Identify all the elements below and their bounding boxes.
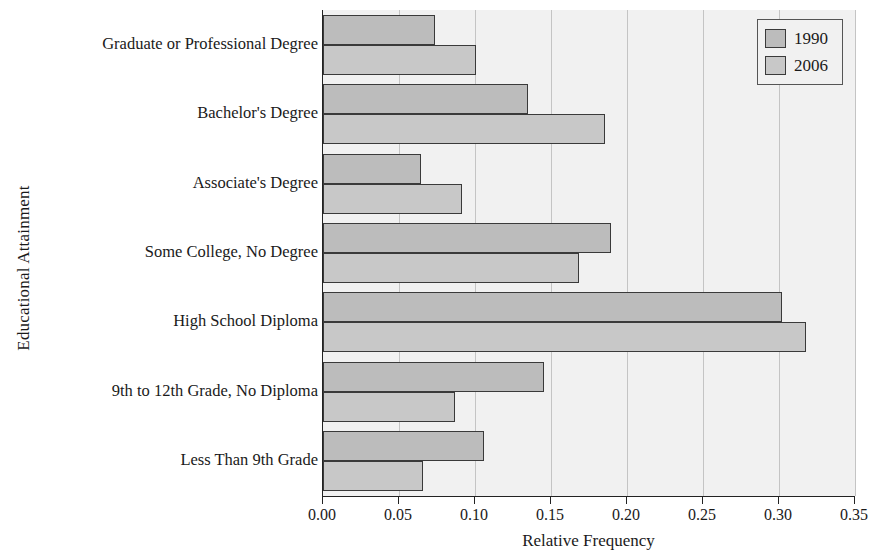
legend-label-1990: 1990	[794, 30, 828, 47]
bar-1990-5	[323, 362, 544, 392]
legend-swatch-1990	[765, 29, 786, 48]
x-tick	[398, 496, 399, 504]
bar-1990-0	[323, 15, 435, 45]
x-tick-label: 0.35	[824, 506, 878, 524]
gridline	[855, 10, 856, 496]
bar-2006-4	[323, 322, 806, 352]
x-tick	[322, 496, 323, 504]
bar-1990-4	[323, 292, 782, 322]
category-label-list: Graduate or Professional DegreeBachelor'…	[20, 10, 318, 496]
legend-swatch-2006	[765, 56, 786, 75]
bar-2006-3	[323, 253, 579, 283]
x-axis-title: Relative Frequency	[322, 531, 855, 551]
bar-2006-1	[323, 114, 605, 144]
category-label: Graduate or Professional Degree	[20, 36, 318, 53]
legend: 1990 2006	[757, 19, 843, 85]
bar-1990-6	[323, 431, 484, 461]
bar-chart: Educational Attainment Graduate or Profe…	[0, 0, 878, 558]
x-tick	[550, 496, 551, 504]
bar-1990-1	[323, 84, 528, 114]
bar-1990-2	[323, 154, 421, 184]
category-label: Some College, No Degree	[20, 244, 318, 261]
category-label: High School Diploma	[20, 313, 318, 330]
x-tick	[626, 496, 627, 504]
bar-2006-6	[323, 461, 423, 491]
category-label: 9th to 12th Grade, No Diploma	[20, 383, 318, 400]
x-tick	[474, 496, 475, 504]
x-tick-label: 0.30	[748, 506, 808, 524]
legend-item-2006: 2006	[765, 52, 836, 79]
x-tick-label: 0.05	[368, 506, 428, 524]
legend-label-2006: 2006	[794, 57, 828, 74]
x-tick-label: 0.15	[520, 506, 580, 524]
x-axis-line	[322, 496, 855, 497]
x-tick-label: 0.25	[672, 506, 732, 524]
legend-item-1990: 1990	[765, 25, 836, 52]
x-tick	[778, 496, 779, 504]
bar-2006-2	[323, 184, 462, 214]
category-label: Associate's Degree	[20, 175, 318, 192]
bar-1990-3	[323, 223, 611, 253]
x-tick-label: 0.20	[596, 506, 656, 524]
bar-2006-5	[323, 392, 455, 422]
x-tick-label: 0.00	[292, 506, 352, 524]
x-tick	[854, 496, 855, 504]
x-tick	[702, 496, 703, 504]
bar-2006-0	[323, 45, 476, 75]
category-label: Less Than 9th Grade	[20, 452, 318, 469]
x-tick-label: 0.10	[444, 506, 504, 524]
category-label: Bachelor's Degree	[20, 105, 318, 122]
